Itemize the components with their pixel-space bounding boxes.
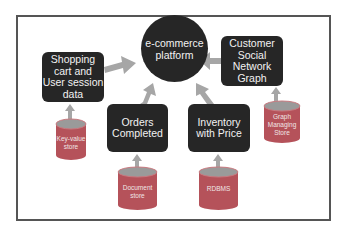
inventory-price-node: Inventory with Price: [188, 104, 250, 152]
ecommerce-platform-node: e-commerce platform: [141, 15, 208, 82]
store-label: Key-value store: [55, 135, 87, 151]
orders-completed-node: Orders Completed: [107, 104, 168, 152]
store-label: Document store: [117, 184, 158, 200]
store-label: RDBMS: [198, 185, 239, 193]
keyvalue-store-node: Key-value store: [55, 118, 87, 161]
document-store-node: Document store: [117, 166, 158, 211]
arrow-shopping-to-platform: [104, 56, 136, 74]
customer-social-graph-node: Customer Social Network Graph: [221, 36, 283, 86]
graph-managing-store-node: Graph Managing Store: [263, 100, 301, 144]
store-label: Graph Managing Store: [263, 113, 301, 137]
arrow-inventory-to-platform: [196, 83, 214, 104]
rdbms-store-node: RDBMS: [198, 166, 239, 211]
shopping-cart-session-node: Shopping cart and User session data: [42, 52, 104, 102]
arrow-orders-to-platform: [140, 83, 156, 104]
